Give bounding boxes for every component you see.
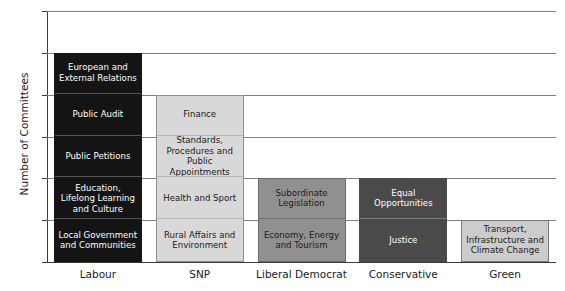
bar-segment[interactable]: Transport, Infrastructure and Climate Ch… <box>462 219 548 261</box>
bar-segment[interactable]: European and External Relations <box>55 52 141 94</box>
y-tick-mark <box>42 220 47 221</box>
segment-divider <box>157 135 243 136</box>
y-axis-title: Number of Committees <box>18 54 30 214</box>
plot-area: 0123456 Local Government and Communities… <box>47 12 556 263</box>
x-axis-label-green: Green <box>454 268 556 280</box>
y-tick-mark <box>42 262 47 263</box>
segment-divider <box>157 176 243 177</box>
bar-liberal-democrat[interactable]: Economy, Energy and TourismSubordinate L… <box>258 178 346 262</box>
bar-segment[interactable]: Economy, Energy and Tourism <box>259 219 345 261</box>
bar-segment[interactable]: Education, Lifelong Learning and Culture <box>55 177 141 219</box>
bar-segment[interactable]: Justice <box>360 219 446 261</box>
bar-segment[interactable]: Public Petitions <box>55 136 141 178</box>
y-tick-mark <box>42 53 47 54</box>
bar-snp[interactable]: Rural Affairs and EnvironmentHealth and … <box>156 95 244 262</box>
segment-divider <box>55 135 141 136</box>
bar-segment[interactable]: Finance <box>157 94 243 136</box>
bar-segment[interactable]: Equal Opportunities <box>360 177 446 219</box>
bar-labour[interactable]: Local Government and CommunitiesEducatio… <box>54 53 142 262</box>
segment-divider <box>259 218 345 219</box>
y-tick-mark <box>42 137 47 138</box>
segment-divider <box>55 218 141 219</box>
x-axis-label-conservative: Conservative <box>352 268 454 280</box>
y-tick-mark <box>42 178 47 179</box>
x-axis-label-snp: SNP <box>149 268 251 280</box>
y-axis-line <box>47 12 48 263</box>
bar-conservative[interactable]: JusticeEqual Opportunities <box>359 178 447 262</box>
y-tick-mark <box>42 95 47 96</box>
x-axis-line <box>47 262 556 263</box>
stacked-bar-chart: Number of Committees 0123456 Local Gover… <box>0 0 565 291</box>
segment-divider <box>157 218 243 219</box>
y-tick-mark <box>42 11 47 12</box>
bar-segment[interactable]: Rural Affairs and Environment <box>157 219 243 261</box>
bar-segment[interactable]: Local Government and Communities <box>55 219 141 261</box>
bar-segment[interactable]: Public Audit <box>55 94 141 136</box>
bar-segment[interactable]: Health and Sport <box>157 177 243 219</box>
gridline <box>47 11 556 12</box>
x-axis-label-labour: Labour <box>47 268 149 280</box>
bar-segment[interactable]: Subordinate Legislation <box>259 177 345 219</box>
x-axis-label-liberal-democrat: Liberal Democrat <box>251 268 353 280</box>
segment-divider <box>55 176 141 177</box>
bar-green[interactable]: Transport, Infrastructure and Climate Ch… <box>461 220 549 262</box>
segment-divider <box>55 93 141 94</box>
segment-divider <box>360 218 446 219</box>
bar-segment[interactable]: Standards, Procedures and Public Appoint… <box>157 136 243 178</box>
